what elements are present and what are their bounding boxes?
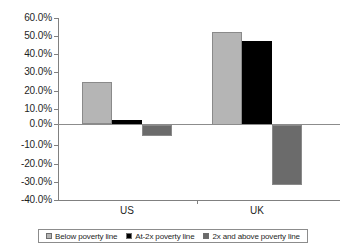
x-category-label-us: US — [97, 205, 157, 217]
y-axis-line — [58, 18, 59, 201]
legend-label-at-2x-poverty-line: At-2x poverty line — [135, 232, 194, 241]
bar-uk-at-2x-poverty-line — [242, 41, 272, 125]
y-axis-label-0: 0.0% — [0, 119, 52, 129]
x-category-separator-tick — [197, 200, 198, 204]
y-axis-label-40: 40.0% — [0, 49, 52, 59]
bar-chart: 60.0% 50.0% 40.0% 30.0% 20.0% 10.0% 0.0%… — [0, 0, 347, 252]
y-axis-label-neg20: -20.0% — [0, 159, 52, 169]
legend-item-2x-and-above-poverty-line: 2x and above poverty line — [203, 232, 299, 241]
chart-legend: Below poverty line At-2x poverty line 2x… — [38, 229, 308, 243]
bar-us-2x-and-above-poverty-line — [142, 125, 172, 136]
bar-uk-below-poverty-line — [212, 32, 242, 125]
legend-swatch-icon-2x-and-above-poverty-line — [203, 233, 209, 239]
y-axis-label-20: 20.0% — [0, 86, 52, 96]
bar-uk-2x-and-above-poverty-line — [272, 125, 302, 185]
legend-swatch-icon-at-2x-poverty-line — [126, 233, 132, 239]
y-axis-label-neg40: -40.0% — [0, 195, 52, 205]
x-axis-bottom-line — [58, 200, 340, 201]
x-category-label-uk: UK — [227, 205, 287, 217]
zero-reference-line — [58, 124, 340, 125]
y-axis-label-neg10: -10.0% — [0, 140, 52, 150]
y-axis-label-60: 60.0% — [0, 13, 52, 23]
legend-swatch-icon-below-poverty-line — [46, 233, 52, 239]
bar-us-below-poverty-line — [82, 82, 112, 124]
y-axis-label-neg30: -30.0% — [0, 177, 52, 187]
legend-item-below-poverty-line: Below poverty line — [46, 232, 117, 241]
legend-label-below-poverty-line: Below poverty line — [55, 232, 117, 241]
legend-label-2x-and-above-poverty-line: 2x and above poverty line — [212, 232, 299, 241]
y-axis-label-30: 30.0% — [0, 67, 52, 77]
legend-item-at-2x-poverty-line: At-2x poverty line — [126, 232, 194, 241]
y-axis-label-50: 50.0% — [0, 31, 52, 41]
y-axis-label-10: 10.0% — [0, 104, 52, 114]
